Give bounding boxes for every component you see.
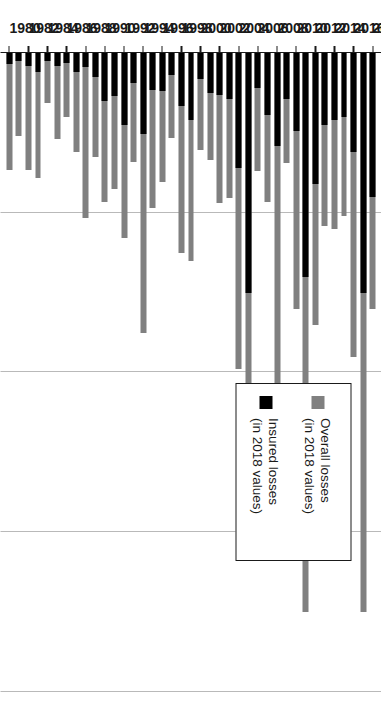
bar-group-1990[interactable] bbox=[101, 53, 107, 202]
bar-insured-2002[interactable] bbox=[216, 53, 222, 95]
bar-overall-1981[interactable] bbox=[15, 53, 21, 136]
bar-overall-1982[interactable] bbox=[25, 53, 31, 170]
bar-group-1998[interactable] bbox=[178, 53, 184, 253]
bar-group-1984[interactable] bbox=[44, 53, 50, 103]
bar-insured-1982[interactable] bbox=[25, 53, 31, 66]
bar-insured-2006[interactable] bbox=[254, 53, 260, 88]
bar-insured-1998[interactable] bbox=[178, 53, 184, 106]
legend-label-line1: Insured losses bbox=[264, 418, 280, 514]
bar-insured-2004[interactable] bbox=[235, 53, 241, 168]
bar-group-2015[interactable] bbox=[341, 53, 347, 216]
year-tick-2002 bbox=[218, 46, 219, 52]
bar-group-2016[interactable] bbox=[350, 53, 356, 357]
bar-insured-1989[interactable] bbox=[92, 53, 98, 77]
bar-insured-2010[interactable] bbox=[293, 53, 299, 131]
bar-insured-2009[interactable] bbox=[283, 53, 289, 99]
year-tick-2014 bbox=[333, 46, 334, 52]
bar-insured-1995[interactable] bbox=[149, 53, 155, 90]
bar-group-1988[interactable] bbox=[82, 53, 88, 218]
bar-group-1982[interactable] bbox=[25, 53, 31, 170]
bar-group-2017[interactable] bbox=[360, 53, 366, 612]
bar-insured-1999[interactable] bbox=[188, 53, 194, 120]
year-tick-1992 bbox=[123, 46, 124, 52]
bar-insured-1984[interactable] bbox=[44, 53, 50, 61]
year-tick-1990 bbox=[104, 46, 105, 52]
bar-group-1991[interactable] bbox=[111, 53, 117, 189]
bar-insured-1990[interactable] bbox=[101, 53, 107, 101]
bar-group-2000[interactable] bbox=[197, 53, 203, 150]
bar-group-2018[interactable] bbox=[369, 53, 375, 309]
bar-insured-2011[interactable] bbox=[302, 53, 308, 277]
bar-group-2009[interactable] bbox=[283, 53, 289, 163]
chart-legend: Overall losses(in 2018 values)Insured lo… bbox=[235, 383, 351, 561]
bar-insured-1992[interactable] bbox=[121, 53, 127, 125]
bar-insured-1994[interactable] bbox=[140, 53, 146, 134]
bar-group-2001[interactable] bbox=[207, 53, 213, 160]
bar-insured-2015[interactable] bbox=[341, 53, 347, 117]
bar-insured-1980[interactable] bbox=[6, 53, 12, 64]
bar-group-1995[interactable] bbox=[149, 53, 155, 208]
bar-group-1994[interactable] bbox=[140, 53, 146, 333]
bar-insured-1991[interactable] bbox=[111, 53, 117, 96]
bar-group-1999[interactable] bbox=[188, 53, 194, 261]
bar-overall-1985[interactable] bbox=[54, 53, 60, 139]
legend-swatch-insured bbox=[259, 396, 272, 409]
bar-insured-2005[interactable] bbox=[245, 53, 251, 293]
year-tick-2000 bbox=[199, 46, 200, 52]
bar-insured-1983[interactable] bbox=[35, 53, 41, 72]
bar-group-1993[interactable] bbox=[130, 53, 136, 162]
bar-group-2012[interactable] bbox=[312, 53, 318, 325]
legend-label: Insured losses(in 2018 values) bbox=[248, 418, 280, 514]
bar-overall-1986[interactable] bbox=[63, 53, 69, 117]
bar-insured-2017[interactable] bbox=[360, 53, 366, 293]
bar-insured-2001[interactable] bbox=[207, 53, 213, 93]
bar-group-2007[interactable] bbox=[264, 53, 270, 202]
bar-group-1980[interactable] bbox=[6, 53, 12, 170]
bar-insured-2012[interactable] bbox=[312, 53, 318, 184]
bar-group-2006[interactable] bbox=[254, 53, 260, 171]
bar-insured-2014[interactable] bbox=[331, 53, 337, 120]
bar-group-1997[interactable] bbox=[168, 53, 174, 138]
year-tick-1994 bbox=[142, 46, 143, 52]
bar-overall-1988[interactable] bbox=[82, 53, 88, 218]
bar-overall-1980[interactable] bbox=[6, 53, 12, 170]
bar-group-1992[interactable] bbox=[121, 53, 127, 238]
year-tick-1984 bbox=[46, 46, 47, 52]
year-tick-1988 bbox=[85, 46, 86, 52]
bar-insured-2016[interactable] bbox=[350, 53, 356, 152]
bar-group-1996[interactable] bbox=[159, 53, 165, 182]
bar-group-1981[interactable] bbox=[15, 53, 21, 136]
bar-insured-2007[interactable] bbox=[264, 53, 270, 115]
bar-insured-2008[interactable] bbox=[274, 53, 280, 146]
bar-group-1985[interactable] bbox=[54, 53, 60, 139]
bar-insured-1985[interactable] bbox=[54, 53, 60, 66]
year-tick-2012 bbox=[314, 46, 315, 52]
year-tick-1986 bbox=[65, 46, 66, 52]
bar-group-2003[interactable] bbox=[226, 53, 232, 198]
bar-group-1983[interactable] bbox=[35, 53, 41, 178]
bar-insured-2000[interactable] bbox=[197, 53, 203, 79]
legend-label-line2: (in 2018 values) bbox=[248, 418, 264, 514]
bar-group-2004[interactable] bbox=[235, 53, 241, 369]
bar-insured-2003[interactable] bbox=[226, 53, 232, 99]
bar-insured-1986[interactable] bbox=[63, 53, 69, 63]
year-tick-1996 bbox=[161, 46, 162, 52]
bar-group-2013[interactable] bbox=[321, 53, 327, 226]
bar-insured-1981[interactable] bbox=[15, 53, 21, 61]
gridline-400 bbox=[0, 691, 381, 692]
bar-insured-1993[interactable] bbox=[130, 53, 136, 83]
bar-insured-2018[interactable] bbox=[369, 53, 375, 197]
bar-insured-2013[interactable] bbox=[321, 53, 327, 125]
plot-area: 1980198219841986198819901992199419961998… bbox=[0, 0, 381, 710]
bar-group-2010[interactable] bbox=[293, 53, 299, 309]
bar-group-2002[interactable] bbox=[216, 53, 222, 203]
bar-group-2014[interactable] bbox=[331, 53, 337, 229]
bar-insured-1997[interactable] bbox=[168, 53, 174, 75]
bar-insured-1988[interactable] bbox=[82, 53, 88, 67]
bar-group-1987[interactable] bbox=[73, 53, 79, 152]
bar-group-1986[interactable] bbox=[63, 53, 69, 117]
bar-group-1989[interactable] bbox=[92, 53, 98, 157]
bar-insured-1987[interactable] bbox=[73, 53, 79, 72]
year-tick-2010 bbox=[295, 46, 296, 52]
bar-insured-1996[interactable] bbox=[159, 53, 165, 91]
